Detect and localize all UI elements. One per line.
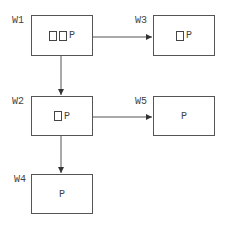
node-text: P [181, 111, 187, 122]
square-icon [59, 31, 67, 41]
node-text: P [186, 30, 192, 41]
node-w1: P [31, 15, 93, 56]
square-icon [49, 31, 57, 41]
node-label-w3: W3 [135, 16, 147, 26]
node-text: P [64, 111, 70, 122]
node-label-w5: W5 [135, 97, 147, 107]
node-w4: P [31, 174, 93, 214]
node-w5: P [153, 96, 215, 136]
node-text: P [59, 189, 65, 200]
node-label-w2: W2 [12, 97, 24, 107]
node-w2: P [31, 96, 93, 136]
square-icon [176, 31, 184, 41]
node-w3: P [153, 15, 215, 56]
node-text: P [69, 30, 75, 41]
node-label-w4: W4 [14, 175, 26, 185]
node-label-w1: W1 [12, 16, 24, 26]
square-icon [54, 111, 62, 121]
